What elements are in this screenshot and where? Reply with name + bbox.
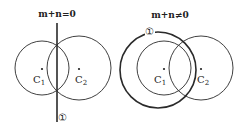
label-c2: C2	[197, 74, 209, 87]
right-title: m+n≠0	[151, 10, 188, 20]
left-diagram: m+n=0 C1 C2 ①	[15, 9, 111, 123]
center-c2-dot	[200, 68, 202, 70]
center-c1-dot	[163, 68, 165, 70]
diagram-svg: m+n=0 C1 C2 ① m+n≠0 C1 C2 ①	[0, 0, 244, 131]
diagram-canvas: m+n=0 C1 C2 ① m+n≠0 C1 C2 ①	[0, 0, 244, 131]
circle-label: ①	[145, 26, 154, 37]
line-label: ①	[58, 112, 67, 123]
left-title: m+n=0	[38, 9, 75, 19]
center-c1-dot	[41, 68, 43, 70]
label-c1: C1	[33, 74, 45, 87]
right-diagram: m+n≠0 C1 C2 ①	[120, 10, 233, 108]
label-c2: C2	[75, 74, 87, 87]
circle-1-thick	[120, 32, 196, 108]
center-c2-dot	[78, 68, 80, 70]
label-c1: C1	[154, 74, 166, 87]
